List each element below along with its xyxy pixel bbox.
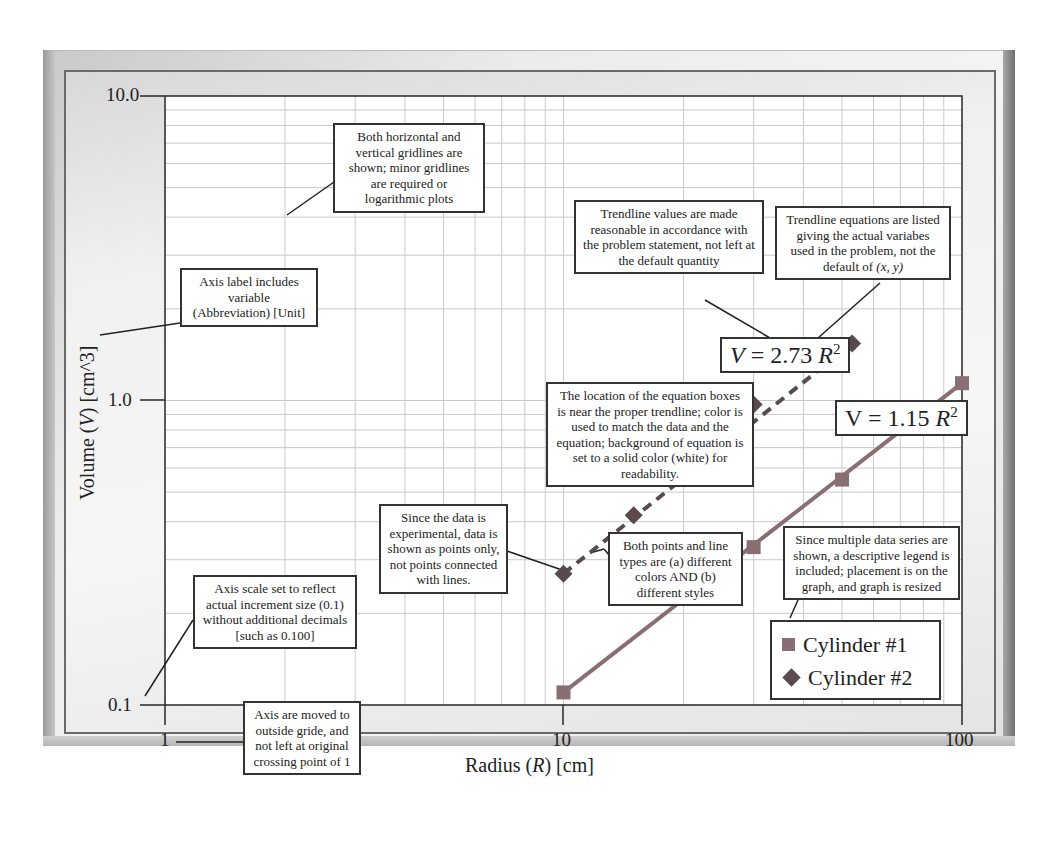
legend: Cylinder #1 Cylinder #2	[770, 620, 941, 700]
y-tick-1: 1.0	[108, 389, 132, 411]
note-equation-location: The location of the equation boxes is ne…	[546, 382, 754, 487]
note-gridlines: Both horizontal and vertical gridlines a…	[333, 123, 485, 213]
y-axis-title: Volume (V) [cm^3]	[76, 345, 99, 500]
note-legend: Since multiple data series are shown, a …	[783, 526, 960, 600]
legend-item-cylinder-2: Cylinder #2	[782, 661, 929, 694]
x-tick-1: 1	[160, 729, 170, 751]
note-axis-label: Axis label includes variable (Abbreviati…	[180, 268, 318, 327]
y-tick-10: 10.0	[106, 84, 139, 106]
legend-item-cylinder-1: Cylinder #1	[782, 628, 929, 661]
note-trendline-equations: Trendline equations are listed giving th…	[775, 206, 951, 280]
equation-cylinder-2: V = 2.73 R2	[720, 337, 850, 373]
diamond-marker-icon	[782, 668, 800, 686]
square-marker-icon	[782, 638, 795, 651]
note-point-line-styles: Both points and line types are (a) diffe…	[608, 532, 743, 606]
note-trendline-values: Trendline values are made reasonable in …	[574, 200, 764, 274]
note-experimental-data: Since the data is experimental, data is …	[379, 504, 508, 594]
y-tick-0-1: 0.1	[108, 694, 132, 716]
x-tick-100: 100	[945, 729, 974, 751]
x-axis-title: Radius (R) [cm]	[465, 754, 594, 777]
note-axis-scale: Axis scale set to reflect actual increme…	[193, 575, 357, 649]
x-tick-10: 10	[552, 729, 571, 751]
equation-cylinder-1: V = 1.15 R2	[835, 400, 968, 436]
note-axis-moved: Axis are moved to outside gride, and not…	[243, 701, 361, 775]
